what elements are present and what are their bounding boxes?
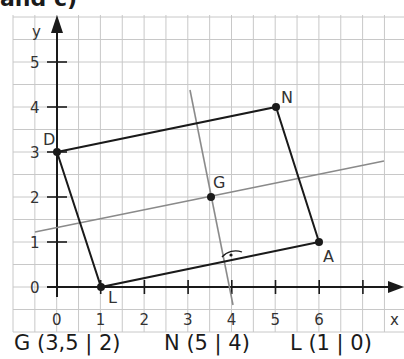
x-tick-label: 3 bbox=[183, 311, 193, 329]
y-tick-label: 2 bbox=[30, 189, 40, 207]
y-axis-label: y bbox=[32, 23, 41, 41]
caption-G: G (3,5 | 2) bbox=[14, 331, 121, 355]
x-tick-label: 5 bbox=[271, 311, 281, 329]
svg-text:A: A bbox=[323, 247, 334, 266]
svg-text:L: L bbox=[108, 288, 117, 307]
coordinate-diagram: 0123456012345 x y D N A L G bbox=[0, 0, 404, 359]
y-tick-label: 1 bbox=[30, 234, 40, 252]
x-tick-label: 0 bbox=[52, 311, 62, 329]
svg-text:G: G bbox=[213, 173, 225, 192]
svg-text:N: N bbox=[281, 88, 293, 107]
y-tick-label: 4 bbox=[30, 99, 40, 117]
x-tick-label: 2 bbox=[139, 311, 149, 329]
x-axis-label: x bbox=[390, 311, 399, 329]
x-tick-label: 4 bbox=[227, 311, 237, 329]
caption-L: L (1 | 0) bbox=[290, 331, 372, 355]
svg-text:D: D bbox=[43, 130, 55, 149]
y-tick-label: 0 bbox=[30, 279, 40, 297]
caption-N: N (5 | 4) bbox=[164, 331, 250, 355]
right-angle-dot bbox=[229, 253, 232, 256]
x-tick-label: 1 bbox=[96, 311, 106, 329]
y-tick-label: 3 bbox=[30, 144, 40, 162]
x-tick-label: 6 bbox=[314, 311, 324, 329]
x-axis-arrow-icon bbox=[388, 281, 404, 293]
y-tick-label: 5 bbox=[30, 54, 40, 72]
y-axis-arrow-icon bbox=[51, 15, 63, 33]
grid bbox=[13, 15, 404, 332]
